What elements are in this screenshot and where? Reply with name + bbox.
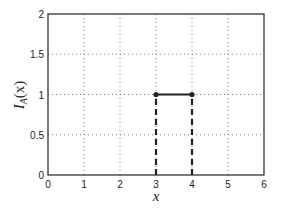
indicator-function-chart: 0123456 00.511.52 x IA(x) — [0, 0, 281, 212]
y-axis-label: IA(x) — [11, 81, 29, 111]
x-tick-label: 5 — [225, 179, 231, 190]
x-axis-label: x — [152, 188, 160, 204]
x-tick-label: 0 — [45, 179, 51, 190]
x-tick-label: 6 — [261, 179, 267, 190]
x-tick-label: 2 — [117, 179, 123, 190]
y-tick-labels: 00.511.52 — [30, 9, 44, 181]
y-tick-label: 0.5 — [30, 130, 44, 141]
y-tick-label: 2 — [38, 9, 44, 20]
x-tick-label: 4 — [189, 179, 195, 190]
y-tick-label: 1.5 — [30, 49, 44, 60]
y-tick-label: 0 — [38, 170, 44, 181]
svg-text:IA(x): IA(x) — [11, 81, 29, 111]
x-tick-label: 1 — [81, 179, 87, 190]
y-tick-label: 1 — [38, 90, 44, 101]
data-series — [153, 92, 194, 175]
